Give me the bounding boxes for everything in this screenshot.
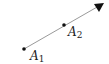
ray-diagram: A1 A2 [0, 0, 109, 64]
point-a2 [62, 23, 66, 27]
ray-line [24, 7, 98, 50]
point-a1 [22, 47, 26, 51]
label-a1: A1 [29, 49, 44, 64]
label-a2: A2 [67, 25, 82, 40]
